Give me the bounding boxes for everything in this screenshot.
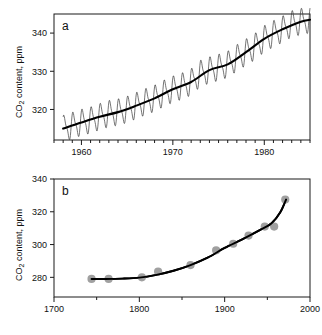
y-tick-label: 300 (32, 240, 47, 250)
panel-a-y-axis-title: CO2 content, ppm (14, 46, 25, 118)
y-tick-label: 280 (32, 273, 47, 283)
y-label-co-b: CO (14, 267, 24, 281)
x-tick-label: 1900 (215, 304, 235, 314)
x-tick-label: 1980 (254, 147, 274, 157)
panel-a-svg: 196019701980320330340 a CO2 content, ppm (0, 0, 322, 167)
y-tick-label: 340 (32, 28, 47, 38)
x-tick-label: 1700 (44, 304, 64, 314)
seasonal-oscillation-line (63, 8, 310, 140)
panel-b-svg: 1700180019002000280300320340 b CO2 conte… (0, 167, 322, 335)
panel-a-label: a (62, 19, 69, 33)
x-tick-label: 2000 (300, 304, 320, 314)
y-tick-label: 330 (32, 67, 47, 77)
panel-b-label: b (62, 184, 69, 198)
co2-figure: 196019701980320330340 a CO2 content, ppm… (0, 0, 322, 335)
panel-a-plot: 196019701980320330340 a CO2 content, ppm (0, 0, 322, 167)
trend-line (63, 20, 310, 129)
y-label-co: CO (14, 104, 24, 118)
x-tick-label: 1960 (71, 147, 91, 157)
y-tick-label: 320 (32, 105, 47, 115)
svg-text:CO2 content, ppm: CO2 content, ppm (14, 209, 25, 281)
panel-b-plot: 1700180019002000280300320340 b CO2 conte… (0, 167, 322, 334)
y-label-rest-b: content, ppm (14, 209, 24, 264)
y-label-rest: content, ppm (14, 46, 24, 101)
y-tick-label: 320 (32, 207, 47, 217)
x-tick-label: 1970 (163, 147, 183, 157)
panel-a: 196019701980320330340 a CO2 content, ppm (0, 0, 322, 167)
x-tick-label: 1800 (129, 304, 149, 314)
panel-b-y-axis-title: CO2 content, ppm (14, 209, 25, 281)
y-tick-label: 340 (32, 174, 47, 184)
panel-b: 1700180019002000280300320340 b CO2 conte… (0, 167, 322, 334)
svg-text:CO2 content, ppm: CO2 content, ppm (14, 46, 25, 118)
